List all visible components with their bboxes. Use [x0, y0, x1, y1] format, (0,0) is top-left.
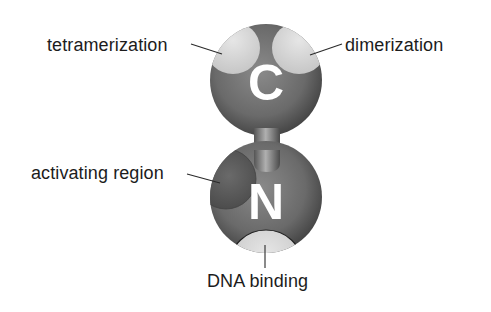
dimerization-leader: [310, 44, 342, 55]
tetramerization-leader: [191, 44, 222, 54]
n-letter: N: [248, 174, 284, 230]
protein-domain-diagram: C N tetramerization dimerization act: [0, 0, 491, 312]
tetramerization-label: tetramerization: [47, 36, 168, 54]
dimerization-label: dimerization: [345, 36, 443, 54]
activating-region-label: activating region: [31, 164, 164, 182]
c-terminal-domain: C: [206, 22, 326, 136]
c-letter: C: [248, 55, 284, 111]
dna-binding-label: DNA binding: [207, 272, 308, 290]
